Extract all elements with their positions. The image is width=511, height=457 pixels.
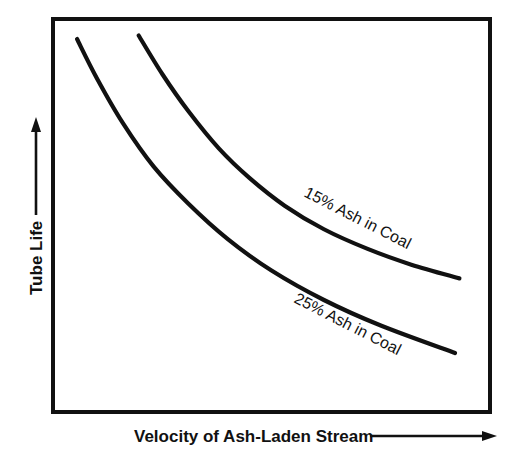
y-axis-label: Tube Life	[27, 221, 46, 295]
chart-figure: 15% Ash in Coal 25% Ash in Coal Tube Lif…	[0, 0, 511, 457]
figure-background	[0, 0, 511, 457]
chart-canvas: 15% Ash in Coal 25% Ash in Coal Tube Lif…	[0, 0, 511, 457]
x-axis-label: Velocity of Ash-Laden Stream	[134, 427, 373, 446]
